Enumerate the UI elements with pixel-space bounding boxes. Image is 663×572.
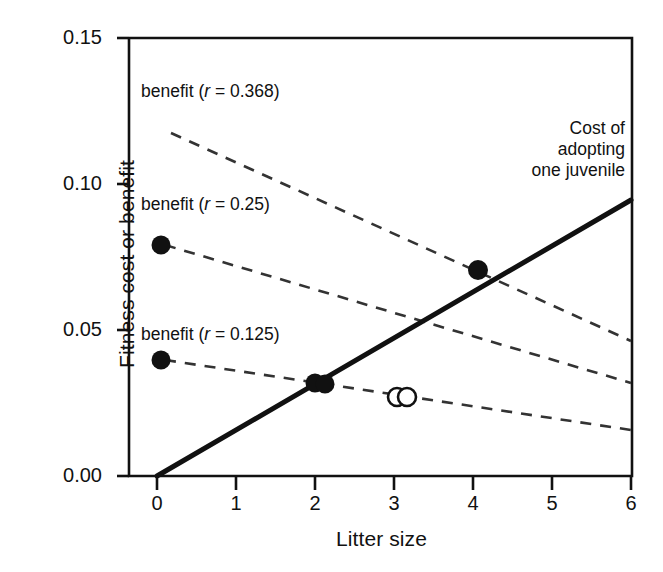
data-point-filled	[316, 375, 335, 394]
cost-annotation-line-1: Cost of	[497, 118, 625, 139]
x-tick-label-5: 5	[532, 492, 572, 515]
benefit-368-suffix: = 0.368)	[210, 81, 280, 101]
y-tick-label-2: 0.10	[18, 172, 102, 195]
x-tick-label-1: 1	[216, 492, 256, 515]
x-tick-label-0: 0	[137, 492, 177, 515]
data-point-filled	[468, 260, 488, 280]
cost-annotation: Cost of adopting one juvenile	[497, 118, 625, 181]
benefit-125-prefix: benefit (	[141, 324, 204, 344]
x-tick-label-3: 3	[374, 492, 414, 515]
x-axis-title: Litter size	[129, 527, 634, 551]
y-tick-label-1: 0.05	[18, 318, 102, 341]
y-tick-label-3: 0.15	[18, 26, 102, 49]
benefit-368-label: benefit (r = 0.368)	[141, 81, 280, 102]
data-point-open	[398, 388, 416, 406]
benefit-125-label: benefit (r = 0.125)	[141, 324, 280, 345]
benefit-25-label: benefit (r = 0.25)	[141, 194, 270, 215]
benefit-25-prefix: benefit (	[141, 194, 204, 214]
x-tick-label-2: 2	[295, 492, 335, 515]
cost-annotation-line-2: adopting	[497, 139, 625, 160]
x-tick-label-4: 4	[453, 492, 493, 515]
benefit-25-suffix: = 0.25)	[210, 194, 270, 214]
open-data-points	[388, 388, 416, 406]
benefit-125-suffix: = 0.125)	[210, 324, 280, 344]
cost-annotation-line-3: one juvenile	[497, 160, 625, 181]
x-axis-ticks	[157, 476, 631, 490]
data-point-filled	[152, 351, 171, 370]
y-tick-label-0: 0.00	[18, 464, 102, 487]
benefit-line-25	[165, 245, 631, 383]
y-axis-title: Fitness cost or benefit	[115, 44, 139, 484]
benefit-368-prefix: benefit (	[141, 81, 204, 101]
chart-figure: 0.00 0.05 0.10 0.15 0 1 2 3 4 5 6 Fitnes…	[0, 0, 663, 572]
data-point-filled	[152, 236, 171, 255]
x-tick-label-6: 6	[611, 492, 651, 515]
